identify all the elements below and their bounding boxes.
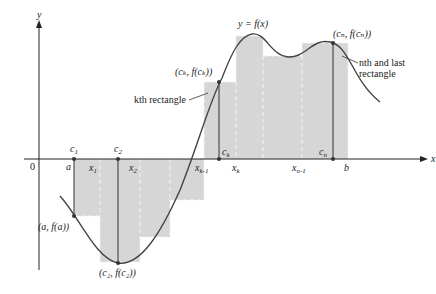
curve-label: y = f(x) [237,18,269,30]
point-cn [331,157,335,161]
point-ck [217,157,221,161]
point-a-fa [72,214,76,218]
label-c1: c1 [70,143,78,156]
x-axis-label: x [430,153,436,164]
x-axis-arrow [420,156,428,162]
nth-rectangle-label-2: rectangle [359,68,396,79]
y-axis-label: y [36,9,42,20]
rect-n [302,43,348,159]
point-c2-fc2 [116,261,120,265]
label-c2-fc2: (c₂, f(c₂)) [99,267,137,279]
rect-3 [140,159,170,237]
label-xn-1: xn-1 [291,162,306,175]
label-c2: c2 [114,143,122,156]
kth-rectangle-label: kth rectangle [134,94,186,105]
riemann-sum-diagram: y x 0 y = f(x) a x1 x2 xk-1 xk xn-1 b c1… [0,0,436,294]
label-a-fa: (a, f(a)) [38,221,70,233]
nth-rectangle-label-1: nth and last [359,57,405,68]
label-xk: xk [231,162,240,175]
y-axis-arrow [36,20,42,28]
label-cn-fcn: (cₙ, f(cₙ)) [333,28,372,40]
point-c2 [116,157,120,161]
point-c1 [72,157,76,161]
rect-6 [236,36,263,159]
point-cn-fcn [331,41,335,45]
rect-k [204,82,236,159]
label-a: a [66,161,71,172]
label-ck-fck: (cₖ, f(cₖ)) [175,66,213,78]
label-b: b [344,162,349,173]
origin-label: 0 [30,161,35,172]
point-ck-fck [217,80,221,84]
rect-7 [263,56,302,159]
